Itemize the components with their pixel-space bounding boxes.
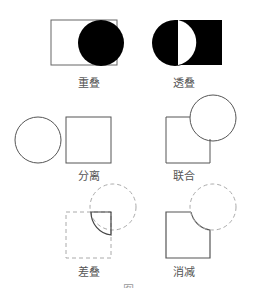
label-transparent-overlap: 透叠 (173, 74, 195, 90)
diagram-canvas (0, 0, 257, 288)
figure-caption: 图 (123, 281, 134, 288)
union-figure (166, 95, 236, 163)
transparent-overlap-figure (152, 20, 222, 66)
separation-figure (15, 117, 111, 163)
square-shape (66, 117, 111, 163)
circle-shape (190, 95, 236, 141)
label-overlap: 重叠 (78, 74, 100, 90)
label-union: 联合 (173, 167, 195, 183)
circle-shape (15, 117, 61, 163)
bite-edge (191, 212, 210, 230)
subtraction-figure (166, 184, 236, 258)
difference-overlap-figure (66, 184, 136, 258)
square-remainder-outline (166, 212, 210, 258)
intersection-outline (91, 212, 111, 235)
square-shape (166, 117, 210, 163)
label-separation: 分离 (78, 167, 100, 183)
overlap-figure (51, 20, 124, 66)
label-subtraction: 消减 (173, 263, 195, 279)
dashed-square-shape (66, 212, 111, 258)
filled-circle-shape (78, 20, 124, 66)
dashed-circle-shape (90, 184, 136, 230)
label-difference-overlap: 差叠 (78, 263, 100, 279)
